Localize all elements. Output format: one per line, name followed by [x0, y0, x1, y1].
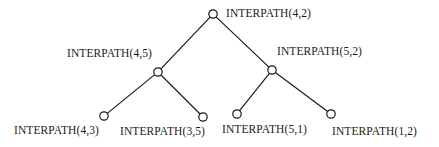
- interpath-call-tree-figure: INTERPATH(4,2)INTERPATH(4,5)INTERPATH(5,…: [0, 0, 439, 147]
- tree-node-label-left: INTERPATH(4,5): [67, 47, 152, 60]
- tree-node-left[interactable]: [154, 68, 162, 76]
- tree-node-leaf1[interactable]: [100, 112, 108, 120]
- tree-node-right[interactable]: [268, 66, 276, 74]
- tree-edge: [161, 75, 200, 114]
- node-layer: [100, 10, 335, 121]
- tree-node-label-leaf2: INTERPATH(3,5): [120, 125, 205, 138]
- tree-edge: [216, 17, 269, 67]
- tree-node-label-leaf1: INTERPATH(4,3): [14, 124, 99, 137]
- tree-edge: [161, 17, 210, 69]
- tree-edge: [240, 73, 270, 110]
- tree-node-label-root: INTERPATH(4,2): [226, 7, 311, 20]
- tree-edge: [275, 73, 327, 112]
- edge-layer: [107, 17, 327, 114]
- tree-node-root[interactable]: [209, 10, 217, 18]
- tree-node-label-leaf4: INTERPATH(1,2): [332, 125, 417, 138]
- tree-node-leaf4[interactable]: [327, 110, 335, 118]
- tree-edge: [107, 75, 154, 114]
- tree-node-leaf3[interactable]: [233, 110, 241, 118]
- tree-node-label-right: INTERPATH(5,2): [277, 45, 362, 58]
- tree-node-leaf2[interactable]: [199, 113, 207, 121]
- tree-node-label-leaf3: INTERPATH(5,1): [222, 123, 307, 136]
